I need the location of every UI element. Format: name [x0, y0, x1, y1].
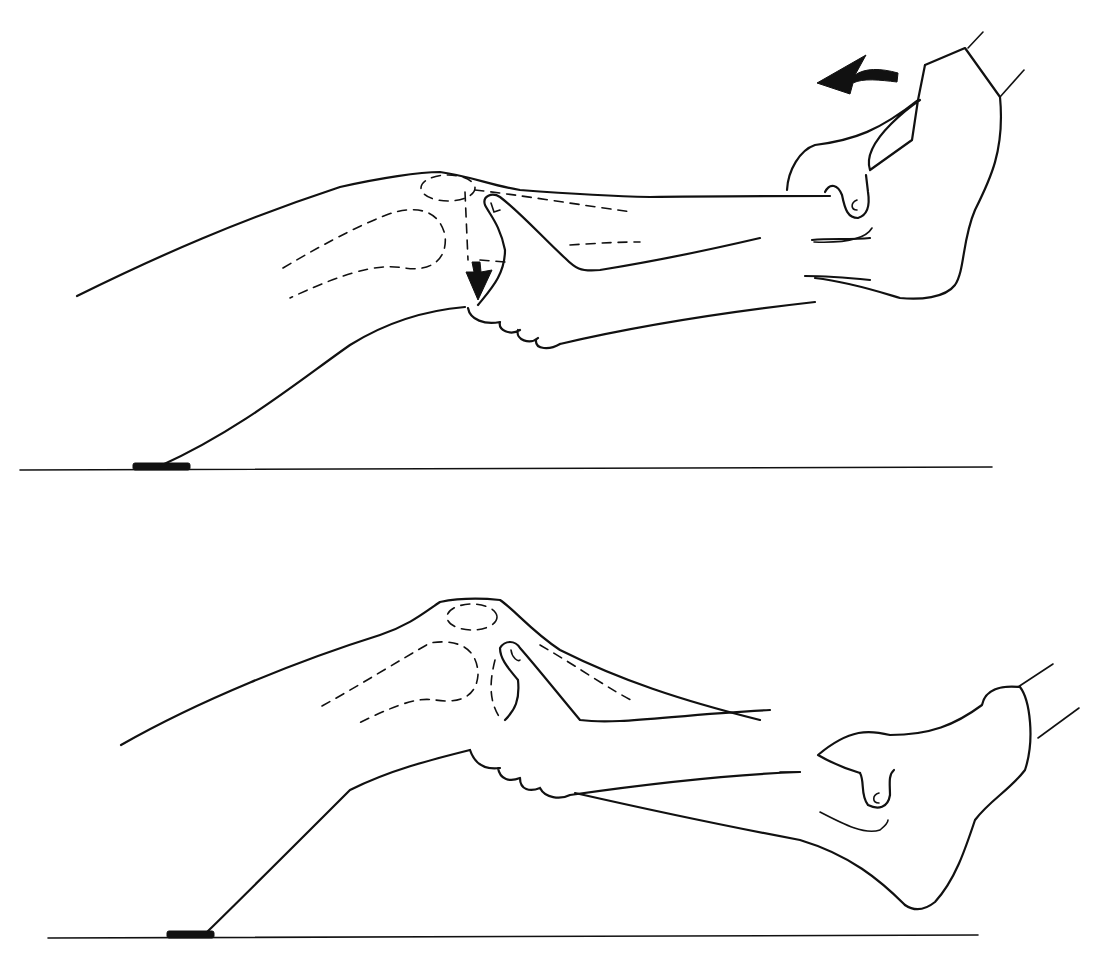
bottom-panel — [48, 599, 1079, 938]
bottom-fingers — [470, 750, 800, 798]
top-shin-line-a — [968, 32, 983, 48]
illustration-canvas: Leg extended on table; examiner hand gri… — [0, 0, 1096, 958]
top-thigh-upper — [77, 172, 830, 296]
bottom-thigh-upper — [121, 599, 760, 745]
bottom-tibia-shaft — [540, 645, 635, 702]
top-finger-nail — [852, 200, 857, 210]
down-arrow-icon — [466, 262, 492, 300]
top-thumb — [478, 195, 760, 305]
rotation-arrow-icon — [817, 55, 898, 94]
bottom-shin-line-b — [1038, 708, 1079, 738]
bottom-foot — [905, 687, 1030, 909]
bottom-hand-on-heel — [818, 687, 1020, 773]
top-shin-lower — [812, 238, 870, 240]
top-hand-on-foot — [787, 65, 925, 190]
bottom-calf-under — [207, 750, 470, 932]
bottom-finger-nail — [874, 793, 879, 803]
top-fingers — [468, 302, 815, 348]
bottom-shin-line-a — [1018, 664, 1053, 687]
top-patella — [421, 175, 475, 201]
top-thumbnail — [491, 203, 500, 212]
bottom-tibia-dash — [491, 660, 500, 718]
bottom-patella — [447, 604, 497, 630]
top-tibia-shaft — [570, 242, 640, 245]
top-panel — [20, 32, 1024, 470]
bottom-hand-finger — [860, 770, 894, 808]
top-tibia-line-vertical — [465, 192, 468, 260]
bottom-femur-condyle — [322, 642, 478, 725]
top-calf-under — [160, 307, 465, 466]
bottom-heel-crease — [820, 812, 888, 831]
bottom-thumbnail — [511, 650, 520, 661]
bottom-shin-under — [575, 793, 905, 905]
top-femur-condyle — [283, 210, 445, 298]
illustration-svg — [0, 0, 1096, 958]
top-shin-line-b — [1000, 70, 1024, 97]
top-hand-finger — [825, 175, 869, 218]
top-joint-short — [480, 260, 505, 262]
